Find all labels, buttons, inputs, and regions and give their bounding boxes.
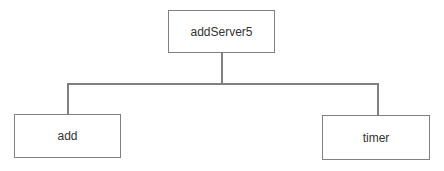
root-connector-line [221, 52, 223, 84]
node-root-addserver5: addServer5 [168, 10, 275, 53]
sibling-bus-line [67, 83, 378, 85]
node-child-add: add [14, 114, 121, 158]
left-child-connector-line [67, 83, 69, 115]
node-child-timer: timer [322, 115, 430, 160]
right-child-connector-line [377, 83, 379, 116]
node-label: addServer5 [190, 25, 252, 39]
node-label: timer [363, 131, 390, 145]
node-label: add [57, 129, 77, 143]
